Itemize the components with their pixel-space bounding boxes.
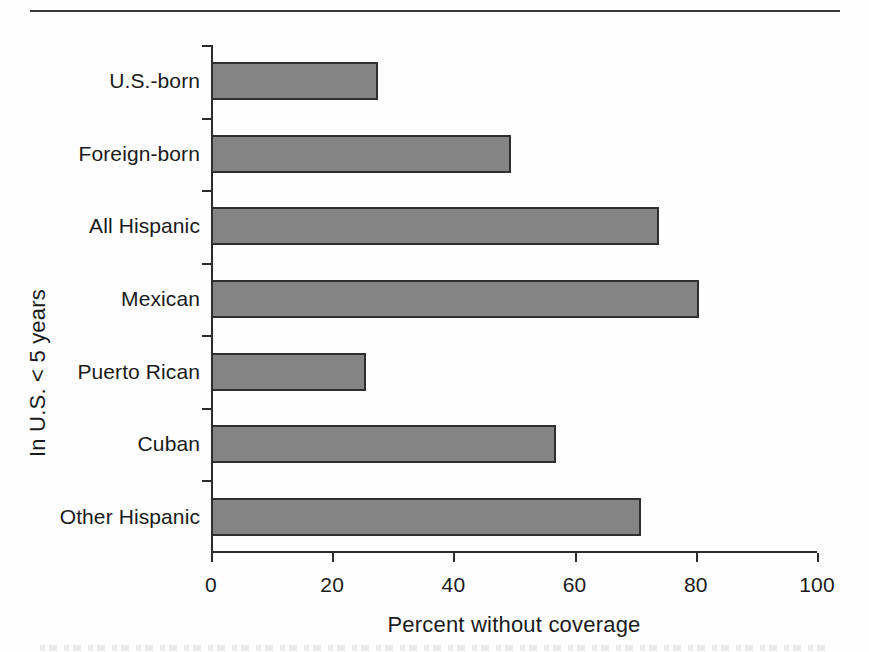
y-axis-tick: [202, 408, 211, 410]
category-label: U.S.-born: [109, 69, 200, 93]
bar: [211, 280, 699, 318]
bar-chart-figure: In U.S. < 5 years U.S.-bornForeign-bornA…: [0, 0, 869, 652]
x-axis-tick: [575, 553, 577, 562]
x-axis-tick: [696, 553, 698, 562]
y-axis-tick: [202, 45, 211, 47]
x-axis-tick-label: 80: [684, 573, 708, 597]
bar: [211, 207, 659, 245]
x-axis-tick: [211, 553, 213, 562]
x-axis-tick-label: 20: [320, 573, 344, 597]
top-horizontal-rule: [30, 10, 840, 12]
y-axis-tick: [202, 480, 211, 482]
y-axis-tick: [202, 118, 211, 120]
bar: [211, 135, 511, 173]
y-axis-tick: [202, 335, 211, 337]
category-label: Cuban: [138, 432, 200, 456]
x-axis-tick: [332, 553, 334, 562]
bar: [211, 353, 366, 391]
x-axis-tick-label: 40: [442, 573, 466, 597]
category-label-layer: U.S.-bornForeign-bornAll HispanicMexican…: [0, 45, 200, 553]
x-axis-tick: [453, 553, 455, 562]
x-axis-tick-label: 60: [563, 573, 587, 597]
page-text-artifact: [40, 645, 830, 651]
category-label: Other Hispanic: [60, 505, 200, 529]
y-axis-tick: [202, 190, 211, 192]
y-axis-tick: [202, 263, 211, 265]
bar: [211, 425, 556, 463]
category-label: Mexican: [121, 287, 200, 311]
x-axis-title: Percent without coverage: [211, 612, 817, 638]
category-label: All Hispanic: [89, 214, 200, 238]
x-axis-line: [211, 551, 817, 553]
plot-area: 020406080100: [211, 45, 817, 553]
category-label: Foreign-born: [79, 142, 200, 166]
x-axis-tick-label: 0: [205, 573, 217, 597]
bar: [211, 62, 378, 100]
x-axis-tick-label: 100: [799, 573, 835, 597]
category-label: Puerto Rican: [77, 360, 200, 384]
x-axis-tick: [817, 553, 819, 562]
bar: [211, 498, 641, 536]
